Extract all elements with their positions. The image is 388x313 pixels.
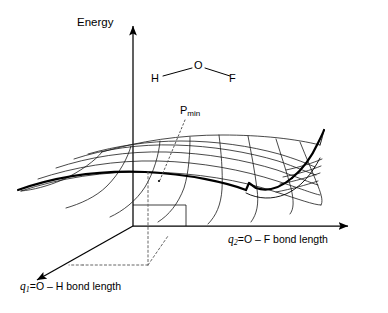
pes-diagram-svg bbox=[0, 0, 388, 313]
energy-surface-mesh bbox=[21, 135, 322, 224]
pmin-label: Pmin bbox=[180, 105, 200, 118]
axis-label-q2: q2=O – F bond length bbox=[228, 234, 328, 247]
q2-quantity: O – F bond length bbox=[244, 233, 328, 245]
atom-label-o: O bbox=[194, 60, 203, 71]
surface-bold-outline bbox=[18, 130, 324, 198]
q1-quantity: O – H bond length bbox=[36, 280, 121, 292]
pmin-subscript: min bbox=[187, 109, 200, 118]
axis-label-q1: q1=O – H bond length bbox=[20, 281, 121, 294]
figure-canvas: Energy Pmin H O F q2=O – F bond length q… bbox=[0, 0, 388, 313]
axis-q1 bbox=[37, 226, 133, 280]
atom-label-f: F bbox=[229, 73, 236, 84]
base-plane-guides bbox=[133, 205, 186, 226]
atom-label-h: H bbox=[151, 73, 159, 84]
minimum-projection-lines bbox=[69, 172, 168, 265]
axis-label-energy: Energy bbox=[77, 17, 113, 29]
